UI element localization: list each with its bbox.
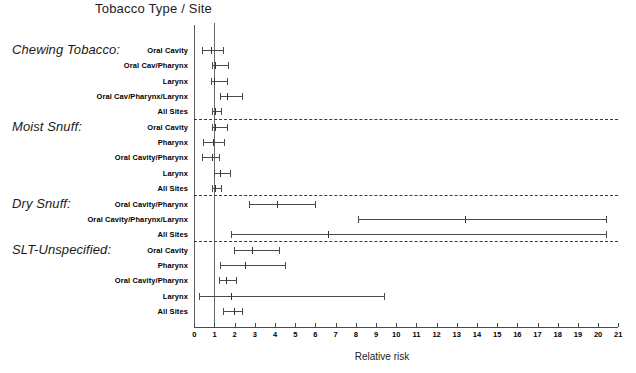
ci-cap-low (219, 277, 220, 284)
x-axis-tick (538, 323, 539, 327)
x-axis-tick-label: 21 (614, 330, 622, 339)
ci-cap-low (212, 185, 213, 192)
ci-cap-low (234, 247, 235, 254)
x-axis-tick-label: 12 (432, 330, 440, 339)
row-label: All Sites (0, 307, 188, 316)
x-axis-tick-label: 8 (354, 330, 358, 339)
ci-point-estimate (465, 216, 466, 223)
x-axis-tick-label: 19 (574, 330, 582, 339)
ci-cap-high (606, 216, 607, 223)
x-axis-tick (618, 323, 619, 327)
ci-bar (212, 111, 220, 112)
x-axis-tick (598, 323, 599, 327)
x-axis-tick (295, 323, 296, 327)
x-axis-tick-label: 9 (374, 330, 378, 339)
x-axis-tick-label: 6 (313, 330, 317, 339)
row-label: Oral Cavity (0, 46, 188, 55)
ci-cap-high (285, 262, 286, 269)
group-separator (194, 119, 618, 120)
x-axis-tick (497, 323, 498, 327)
ci-bar (220, 96, 242, 97)
row-label: Oral Cavity/Pharynx (0, 200, 188, 209)
x-axis-tick (376, 323, 377, 327)
ci-bar (219, 280, 236, 281)
ci-point-estimate (213, 139, 214, 146)
ci-cap-high (230, 170, 231, 177)
x-axis-tick (235, 323, 236, 327)
ci-point-estimate (215, 124, 216, 131)
ci-cap-low (220, 93, 221, 100)
x-axis-tick-label: 16 (513, 330, 521, 339)
group-separator (194, 241, 618, 242)
ci-point-estimate (211, 47, 212, 54)
ci-bar (202, 157, 218, 158)
x-axis-tick-label: 11 (412, 330, 420, 339)
x-axis-tick (356, 323, 357, 327)
ci-point-estimate (226, 277, 227, 284)
ci-cap-high (228, 62, 229, 69)
x-axis-tick-label: 4 (273, 330, 277, 339)
row-label: Oral Cavity/Pharynx (0, 153, 188, 162)
row-label: Oral Cavity/Pharynx/Larynx (0, 215, 188, 224)
ci-cap-high (221, 108, 222, 115)
forest-plot-figure: Tobacco Type / Site 01234567891011121314… (0, 0, 636, 373)
ci-cap-high (224, 139, 225, 146)
row-label: Larynx (0, 292, 188, 301)
ci-cap-low (220, 262, 221, 269)
ci-point-estimate (220, 170, 221, 177)
x-axis-tick (558, 323, 559, 327)
ci-cap-high (279, 247, 280, 254)
x-axis-tick (275, 323, 276, 327)
row-label: Oral Cav/Pharynx/Larynx (0, 92, 188, 101)
x-axis-tick-label: 1 (212, 330, 216, 339)
x-axis-tick-label: 0 (192, 330, 196, 339)
ci-cap-low (231, 231, 232, 238)
y-axis-spine (194, 25, 195, 327)
ci-cap-high (223, 47, 224, 54)
ci-cap-high (227, 78, 228, 85)
row-label: Pharynx (0, 138, 188, 147)
ci-cap-high (227, 124, 228, 131)
ci-cap-low (212, 62, 213, 69)
x-axis-tick-label: 18 (554, 330, 562, 339)
x-axis-tick (255, 323, 256, 327)
ci-point-estimate (212, 154, 213, 161)
ci-point-estimate (215, 62, 216, 69)
ci-cap-high (219, 154, 220, 161)
ci-bar (358, 219, 606, 220)
x-axis-tick (578, 323, 579, 327)
ci-cap-low (358, 216, 359, 223)
row-label: Larynx (0, 77, 188, 86)
ci-cap-low (214, 170, 215, 177)
ci-cap-high (221, 185, 222, 192)
x-axis-line (194, 327, 618, 328)
ci-cap-low (211, 78, 212, 85)
x-axis-tick (396, 323, 397, 327)
x-axis-tick-label: 20 (594, 330, 602, 339)
ci-point-estimate (328, 231, 329, 238)
x-axis-tick (194, 323, 195, 327)
ci-bar (234, 250, 279, 251)
row-label: All Sites (0, 184, 188, 193)
row-label: Pharynx (0, 261, 188, 270)
ci-point-estimate (252, 247, 253, 254)
ci-cap-low (202, 47, 203, 54)
x-axis-tick-label: 3 (253, 330, 257, 339)
ci-point-estimate (231, 293, 232, 300)
ci-cap-low (212, 108, 213, 115)
x-axis-tick (477, 323, 478, 327)
row-label: Oral Cavity/Pharynx (0, 276, 188, 285)
group-separator (194, 195, 618, 196)
x-axis-tick (315, 323, 316, 327)
ci-point-estimate (245, 262, 246, 269)
ci-point-estimate (227, 93, 228, 100)
x-axis-tick-label: 7 (334, 330, 338, 339)
x-axis-tick (437, 323, 438, 327)
row-label: All Sites (0, 230, 188, 239)
row-label: Oral Cavity (0, 246, 188, 255)
row-label: Larynx (0, 169, 188, 178)
ci-bar (202, 50, 223, 51)
ci-cap-low (223, 308, 224, 315)
page-title: Tobacco Type / Site (95, 1, 212, 16)
ci-bar (212, 65, 228, 66)
